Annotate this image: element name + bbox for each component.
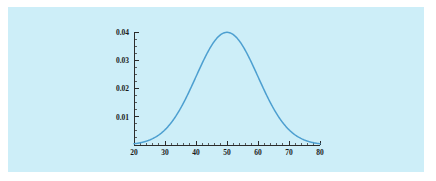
x-tick-label: 60 [254, 148, 262, 157]
y-tick-label: 0.03 [116, 56, 129, 65]
x-tick-label: 80 [316, 148, 324, 157]
x-tick-label: 30 [161, 148, 169, 157]
y-tick-label: 0.01 [116, 113, 129, 122]
x-tick-label: 50 [223, 148, 231, 157]
y-tick-label: 0.04 [116, 28, 129, 37]
normal-distribution-chart: 20304050607080 0.010.020.030.04 [8, 7, 424, 172]
x-tick-label: 40 [192, 148, 200, 157]
y-tick-label: 0.02 [116, 84, 129, 93]
figure-root: 20304050607080 0.010.020.030.04 [0, 0, 436, 181]
chart-panel: 20304050607080 0.010.020.030.04 [8, 7, 424, 172]
x-axis-tick-labels: 20304050607080 [130, 148, 324, 157]
x-tick-label: 70 [285, 148, 293, 157]
x-tick-label: 20 [130, 148, 138, 157]
x-axis-major-ticks [134, 141, 320, 146]
normal-density-curve [134, 32, 320, 143]
y-axis-tick-labels: 0.010.020.030.04 [116, 28, 129, 122]
